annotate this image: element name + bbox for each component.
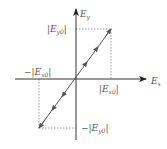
label-pos-ex0: |Ex0| [99,84,119,95]
x-axis-label: Ex [150,76,162,87]
polarization-diagram: Ey Ex |Ey0| −|Ex0| |Ex0| −|Ey0| [0,0,167,149]
label-neg-ey0: −|Ey0| [81,123,108,135]
label-pos-ey0: |Ey0| [47,24,67,36]
arrow-mid-down-1-icon [62,93,65,97]
y-axis-label: Ey [79,9,91,21]
arrow-bottom-left-icon [39,120,45,128]
arrow-mid-up-1-icon [95,47,98,51]
label-neg-ex0: −|Ex0| [24,67,51,78]
arrow-mid-down-2-icon [52,106,55,110]
arrow-mid-up-2-icon [84,62,87,66]
arrow-top-right-icon [105,29,111,37]
